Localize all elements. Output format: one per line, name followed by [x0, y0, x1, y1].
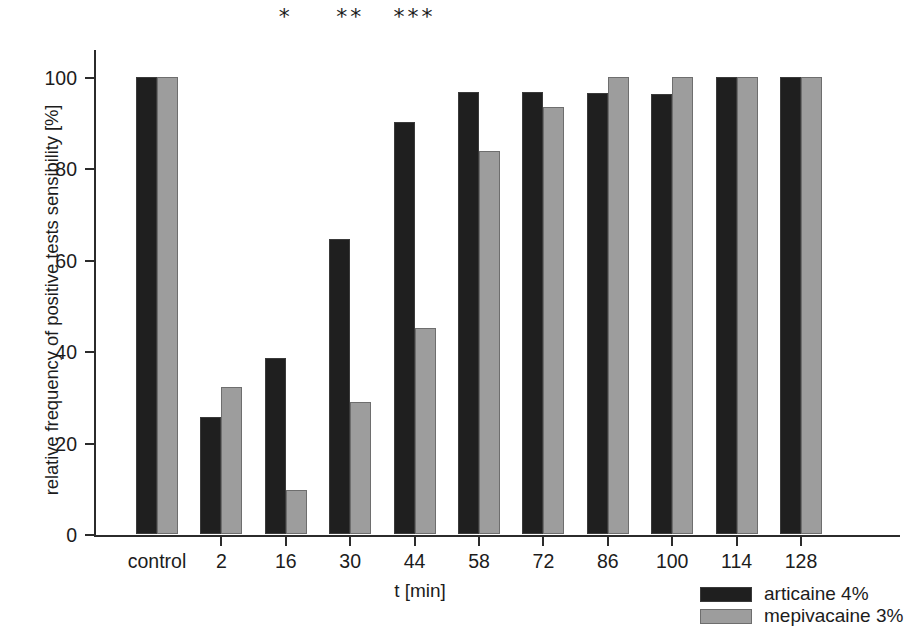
x-axis-tick [220, 537, 222, 546]
y-axis-tick-labels: 020406080100 [17, 50, 77, 536]
x-axis-tick [736, 537, 738, 546]
bar [157, 77, 178, 534]
y-axis-tick [85, 443, 94, 445]
bar [200, 417, 221, 534]
y-axis-tick-label: 100 [17, 67, 77, 90]
legend-swatch-mepivacaine [700, 609, 752, 624]
bar [780, 77, 801, 534]
y-axis-tick-label: 80 [17, 158, 77, 181]
y-axis-line [94, 50, 96, 536]
x-axis-tick [542, 537, 544, 546]
legend-item-articaine: articaine 4% [700, 583, 914, 605]
y-axis-tick [85, 351, 94, 353]
x-axis-tick [671, 537, 673, 546]
bar [672, 77, 693, 534]
y-axis-tick-label: 20 [17, 433, 77, 456]
legend-item-mepivacaine: mepivacaine 3% [700, 605, 914, 627]
bar [415, 328, 436, 534]
bar [394, 122, 415, 534]
legend-swatch-articaine [700, 587, 752, 602]
significance-marker: *** [355, 8, 475, 26]
bar [651, 94, 672, 534]
bar [522, 92, 543, 534]
legend-label-mepivacaine: mepivacaine 3% [764, 605, 903, 627]
bar [716, 77, 737, 534]
y-axis-tick [85, 534, 94, 536]
y-axis-tick [85, 168, 94, 170]
x-axis-tick [478, 537, 480, 546]
bar [350, 402, 371, 534]
x-axis-tick [285, 537, 287, 546]
bar [801, 77, 822, 534]
bar [737, 77, 758, 534]
bar [458, 92, 479, 534]
bar [543, 107, 564, 534]
bar [136, 77, 157, 534]
chart-legend: articaine 4% mepivacaine 3% [700, 583, 914, 627]
x-axis-tick [349, 537, 351, 546]
x-axis-tick [414, 537, 416, 546]
bar [608, 77, 629, 534]
x-axis-tick-label: 128 [741, 550, 861, 573]
x-axis-tick [800, 537, 802, 546]
y-axis-tick-label: 0 [17, 524, 77, 547]
y-axis-tick [85, 77, 94, 79]
plot-area: 020406080100 control21630445872861001141… [94, 50, 900, 535]
bar [265, 358, 286, 534]
bar [329, 239, 350, 534]
y-axis-tick-label: 60 [17, 250, 77, 273]
bar [286, 490, 307, 534]
y-axis-tick [85, 260, 94, 262]
bar [479, 151, 500, 534]
x-axis-line [94, 535, 900, 537]
legend-label-articaine: articaine 4% [764, 583, 869, 605]
x-axis-title: t [min] [330, 580, 510, 602]
bar [221, 387, 242, 534]
y-axis-tick-label: 40 [17, 341, 77, 364]
bar [587, 93, 608, 534]
x-axis-tick [607, 537, 609, 546]
bar-chart-figure: relative frequency of positive tests sen… [0, 0, 914, 632]
